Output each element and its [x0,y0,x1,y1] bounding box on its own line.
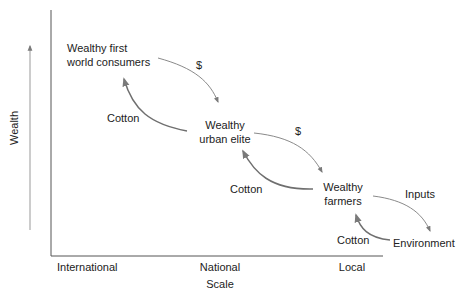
node-consumers-line1: Wealthy first [67,41,150,55]
node-consumers-line2: world consumers [67,55,150,69]
node-farmers-line1: Wealthy [323,180,363,194]
node-urban-elite: Wealthy urban elite [199,118,250,146]
node-environment: Environment [393,236,455,250]
flow-label-cotton-2: Cotton [230,182,262,196]
node-farmers-line2: farmers [323,194,363,208]
y-axis-label: Wealth [8,108,20,148]
flow-label-money-1: $ [196,58,202,72]
flow-label-inputs: Inputs [405,187,435,201]
x-tick-local: Local [339,260,365,274]
node-farmers: Wealthy farmers [323,180,363,208]
x-axis-label: Scale [206,277,234,291]
flow-label-money-2: $ [295,124,301,138]
node-urban-elite-line1: Wealthy [199,118,250,132]
flow-label-cotton-3: Cotton [337,233,369,247]
flow-arrow-inputs [373,196,430,231]
x-tick-international: International [57,260,118,274]
flow-label-cotton-1: Cotton [107,111,139,125]
wealth-scale-diagram: Wealth Wealthy first world consumers Wea… [0,0,461,301]
node-urban-elite-line2: urban elite [199,132,250,146]
flow-arrow-money-1 [158,58,218,102]
flow-arrow-money-2 [254,133,322,172]
x-tick-national: National [200,260,240,274]
node-consumers: Wealthy first world consumers [67,41,150,69]
